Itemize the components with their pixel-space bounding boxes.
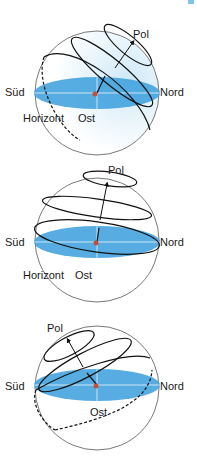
observer-dot [93, 92, 98, 97]
celestial-sphere-diagram-3: Pol Süd Nord Ost [0, 310, 197, 464]
label-sued: Süd [5, 236, 25, 248]
label-horizont: Horizont [23, 269, 64, 281]
observer-dot [94, 241, 99, 246]
label-horizont: Horizont [23, 112, 64, 124]
label-nord: Nord [160, 380, 184, 392]
observer-dot [94, 384, 99, 389]
label-sued: Süd [5, 380, 25, 392]
celestial-sphere-diagram-1: Pol Süd Nord Horizont Ost [0, 0, 197, 158]
label-pol: Pol [108, 164, 124, 176]
label-ost: Ost [78, 112, 95, 124]
label-nord: Nord [160, 86, 184, 98]
label-ost: Ost [90, 406, 107, 418]
label-ost: Ost [75, 269, 92, 281]
label-nord: Nord [160, 236, 184, 248]
label-pol: Pol [133, 28, 149, 40]
celestial-sphere-diagram-2: Pol Süd Nord Horizont Ost [0, 158, 197, 308]
label-pol: Pol [47, 322, 63, 334]
label-sued: Süd [5, 86, 25, 98]
